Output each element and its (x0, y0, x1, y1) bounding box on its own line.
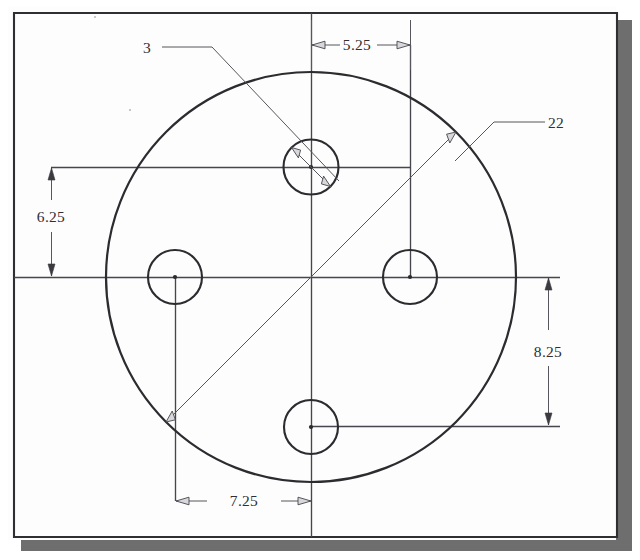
dimension-6-25: 6.25 (37, 168, 65, 276)
dimension-5-25: 5.25 (312, 20, 411, 70)
centerlines-group (14, 13, 560, 537)
dimension-hole-diameter: 3 (143, 39, 339, 187)
technical-drawing-canvas: 3 22 5.25 (0, 0, 640, 560)
scan-speck (94, 16, 96, 18)
arrowhead-8-25-top (545, 278, 552, 290)
arrowhead-5-25-left (312, 41, 325, 49)
arrowhead-dia22-lower-left (166, 411, 175, 422)
arrowhead-8-25-bottom (545, 413, 552, 425)
dimension-plate-diameter: 22 (166, 114, 564, 422)
arrowhead-5-25-right (397, 41, 410, 49)
dimension-7-25: 7.25 (176, 492, 311, 509)
dimension-label-3: 3 (143, 39, 151, 56)
arrowhead-7-25-left (176, 497, 189, 505)
dimension-label-8-25: 8.25 (534, 343, 562, 360)
dimension-label-5-25: 5.25 (343, 36, 371, 53)
arrowhead-7-25-right (298, 497, 311, 505)
drawing-screenshot: 3 22 5.25 (0, 0, 640, 560)
drawing-border (14, 13, 617, 537)
arrowhead-dia22-upper-right (447, 132, 456, 143)
dimension-label-22: 22 (548, 114, 564, 131)
arrowhead-dia3-upper (292, 148, 301, 158)
arrowhead-6-25-top (48, 168, 55, 180)
scan-speck (129, 109, 131, 111)
arrowhead-dia3-lower (321, 176, 330, 186)
arrowhead-6-25-bottom (48, 264, 55, 276)
dimension-label-6-25: 6.25 (37, 208, 65, 225)
dimension-8-25: 8.25 (534, 278, 562, 425)
dimension-label-7-25: 7.25 (230, 492, 258, 509)
